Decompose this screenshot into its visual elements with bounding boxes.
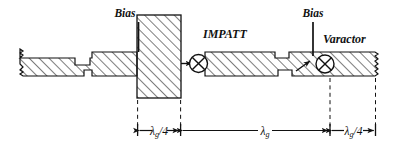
- diagram-canvas: Bias Bias IMPATT Varactor λg/4 λg: [0, 0, 395, 148]
- dimension-label-middle: λg: [259, 125, 269, 140]
- dimension-left: λg/4: [140, 125, 179, 140]
- dimension-label-right: λg/4: [343, 125, 362, 140]
- dimension-right: λg/4: [332, 125, 374, 140]
- center-bias-block: [137, 15, 181, 98]
- waveguide-left-section: [20, 49, 137, 76]
- impatt-diode-symbol: [181, 55, 208, 73]
- waveguide-circuit-figure: Bias Bias IMPATT Varactor λg/4 λg: [0, 0, 395, 148]
- impatt-label: IMPATT: [202, 27, 247, 41]
- bias-label-left: Bias: [113, 7, 136, 19]
- varactor-label: Varactor: [323, 32, 366, 46]
- dimension-middle: λg: [183, 125, 328, 140]
- waveguide-right-section: [205, 52, 378, 76]
- bias-label-right: Bias: [301, 7, 324, 19]
- dimension-label-left: λg/4: [149, 125, 168, 140]
